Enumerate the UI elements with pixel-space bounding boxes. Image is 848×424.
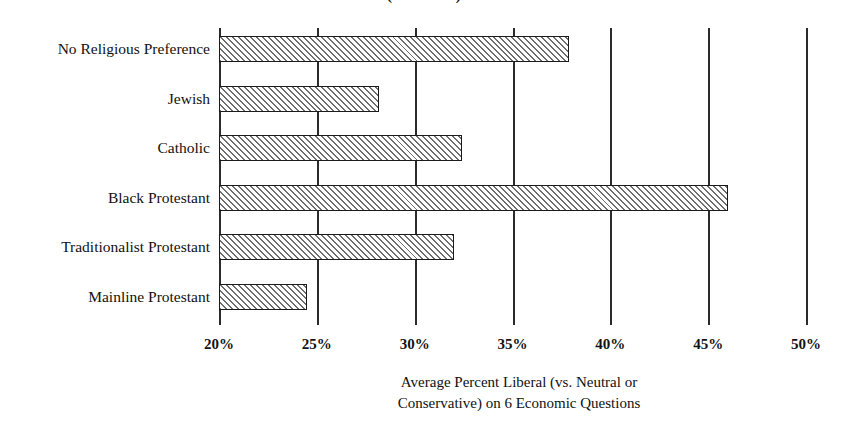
bar <box>219 86 379 112</box>
gridline-20pct <box>219 28 221 325</box>
bar <box>219 135 462 161</box>
x-axis-caption-line-2: Conservative) on 6 Economic Questions <box>219 393 819 414</box>
bar-row <box>219 135 806 161</box>
x-axis-caption: Average Percent Liberal (vs. Neutral or … <box>219 372 819 414</box>
gridline-25pct <box>317 28 319 325</box>
category-label: Catholic <box>0 135 210 161</box>
category-label: Black Protestant <box>0 185 210 211</box>
category-label: Traditionalist Protestant <box>0 234 210 260</box>
category-label: Mainline Protestant <box>0 284 210 310</box>
bar-row <box>219 36 806 62</box>
bar-chart: (GSS Data) No Religious PreferenceJewish… <box>0 0 848 424</box>
gridline-30pct <box>415 28 417 325</box>
plot-area <box>219 28 806 325</box>
bar-row <box>219 284 806 310</box>
x-tick-label: 50% <box>771 336 841 353</box>
category-label: Jewish <box>0 86 210 112</box>
bar <box>219 284 307 310</box>
chart-title: (GSS Data) <box>0 0 848 4</box>
x-tick-label: 30% <box>380 336 450 353</box>
x-tick-label: 45% <box>673 336 743 353</box>
x-tick-label: 40% <box>575 336 645 353</box>
bar-row <box>219 86 806 112</box>
category-label: No Religious Preference <box>0 36 210 62</box>
x-tick-label: 35% <box>478 336 548 353</box>
gridline-50pct <box>806 28 808 325</box>
x-tick-label: 20% <box>184 336 254 353</box>
gridline-45pct <box>708 28 710 325</box>
x-axis-caption-line-1: Average Percent Liberal (vs. Neutral or <box>219 372 819 393</box>
bar <box>219 36 569 62</box>
x-tick-label: 25% <box>282 336 352 353</box>
gridline-35pct <box>513 28 515 325</box>
bar <box>219 234 454 260</box>
bar-row <box>219 234 806 260</box>
bar-row <box>219 185 806 211</box>
bar <box>219 185 728 211</box>
gridline-40pct <box>610 28 612 325</box>
